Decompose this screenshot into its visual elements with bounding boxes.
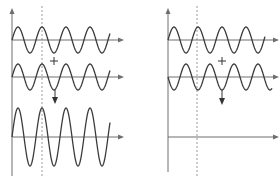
y-axis-arrow-icon [10,8,15,14]
diagram-canvas [0,0,280,182]
x-axis-arrow-icon [118,75,124,80]
y-axis-arrow-icon [166,8,171,14]
x-axis-arrow-icon [273,38,279,43]
down-arrow-icon [219,98,225,105]
x-axis-arrow-icon [118,38,124,43]
x-axis-arrow-icon [273,75,279,80]
down-arrow-icon [52,97,58,104]
wave-interference-diagram [0,0,280,182]
x-axis-arrow-icon [118,135,124,140]
x-axis-arrow-icon [273,135,279,140]
